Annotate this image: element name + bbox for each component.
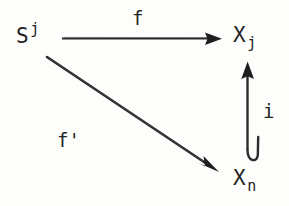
node-x-n-base: X — [233, 166, 246, 190]
commutative-diagram: X_j ===== --> X_n ===== --> Sj Xj — [0, 0, 289, 206]
arrow-i — [241, 62, 258, 161]
node-x-n: Xn — [233, 168, 255, 189]
arrow-f — [62, 33, 222, 46]
arrow-f-prime-head — [199, 156, 220, 172]
node-s-j-base: S — [16, 24, 29, 48]
node-x-j-base: X — [233, 23, 246, 47]
arrow-f-head — [205, 33, 222, 46]
node-x-j: Xj — [233, 25, 255, 46]
node-x-j-subscript: j — [247, 34, 256, 52]
arrow-label-f-prime: f' — [57, 131, 80, 150]
node-s-j: Sj — [16, 26, 38, 47]
arrow-f-prime — [47, 57, 219, 172]
arrow-label-i: i — [263, 102, 274, 121]
node-x-n-subscript: n — [247, 177, 256, 195]
node-s-j-superscript: j — [30, 20, 39, 38]
arrow-i-hook-tail — [248, 137, 259, 160]
arrow-label-f: f — [132, 9, 143, 28]
